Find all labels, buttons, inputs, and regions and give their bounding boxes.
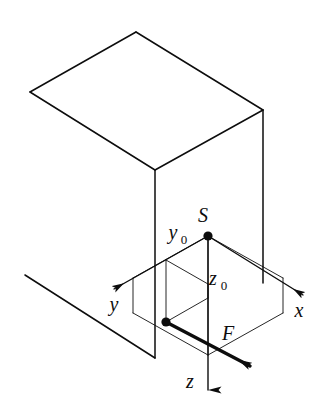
block-edge-top-left <box>30 92 155 170</box>
centroid-point-marker <box>203 231 212 240</box>
label-offset-z0-subscript: 0 <box>221 278 228 293</box>
label-offset-y0-base: y <box>167 221 178 244</box>
label-offset-z0-base: z <box>208 267 217 289</box>
axis-y-line <box>114 236 208 289</box>
block-outline <box>25 32 263 358</box>
technical-diagram: S x y z F y 0 z 0 <box>0 0 326 413</box>
label-offset-y0: y 0 <box>167 221 188 247</box>
label-offset-z0: z 0 <box>208 267 227 293</box>
construction-y0-lower <box>166 298 208 322</box>
block-edge-top-rear-right <box>136 32 263 110</box>
block-edge-top-rear-left <box>30 32 136 92</box>
label-offset-y0-subscript: 0 <box>181 232 188 247</box>
label-centroid-S: S <box>198 204 208 226</box>
coordinate-axes <box>114 236 303 390</box>
label-force-F: F <box>221 322 235 344</box>
force-application-point-marker <box>161 317 170 326</box>
label-axis-y: y <box>108 293 119 316</box>
block-edge-top-right <box>155 110 263 170</box>
block-edge-bottom-left <box>25 275 155 358</box>
diagram-canvas: S x y z F y 0 z 0 <box>0 0 326 413</box>
label-axis-z: z <box>185 370 194 392</box>
construction-y0-upper <box>166 260 208 284</box>
label-axis-x: x <box>294 299 304 321</box>
